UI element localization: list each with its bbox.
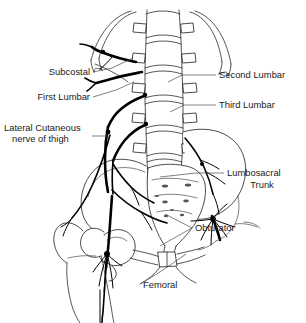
leader-second-lumbar [168,75,216,82]
label-first-lumbar: First Lumbar [37,91,90,102]
label-lumbosacral-trunk-line2: Trunk [250,179,274,190]
label-femoral: Femoral [143,279,177,290]
label-subcostal: Subcostal [49,66,90,77]
label-second-lumbar: Second Lumbar [219,69,285,80]
label-lateral-cutaneous-line1: Lateral Cutaneous [4,122,81,133]
anatomical-illustration: Subcostal First Lumbar Lateral Cutaneous… [0,0,306,323]
leader-first-lumbar [93,82,134,97]
label-lumbosacral-trunk-line1: Lumbosacral [227,167,281,178]
leader-third-lumbar [170,105,216,112]
label-third-lumbar: Third Lumbar [219,99,275,110]
label-lateral-cutaneous-line2: nerve of thigh [12,133,69,144]
lumbar-plexus-diagram: Subcostal First Lumbar Lateral Cutaneous… [0,0,306,323]
label-obturator: Obturator [195,222,235,233]
